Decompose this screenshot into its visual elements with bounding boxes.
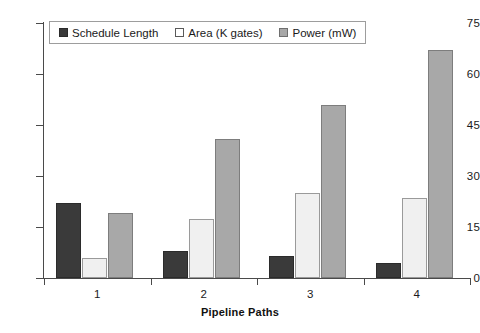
bar: [321, 105, 346, 278]
x-axis-separator: [151, 278, 152, 285]
bar: [189, 219, 214, 279]
x-axis-tick-label: 1: [94, 288, 100, 300]
legend-swatch-icon: [279, 28, 288, 37]
y-axis-tick: [36, 278, 44, 279]
bar: [215, 139, 240, 278]
bar: [376, 263, 401, 278]
legend-item: Power (mW): [279, 27, 356, 39]
x-axis-tick-label: 2: [201, 288, 207, 300]
bar: [82, 258, 107, 278]
chart-legend: Schedule LengthArea (K gates)Power (mW): [49, 21, 366, 44]
bar: [428, 50, 453, 278]
legend-swatch-icon: [59, 28, 68, 37]
bar-chart: 01530456075 1234 Pipeline Paths Schedule…: [0, 0, 480, 333]
x-axis-separator: [364, 278, 365, 285]
legend-swatch-icon: [175, 28, 184, 37]
x-axis-separator: [470, 278, 471, 285]
y-axis-tick: [36, 23, 44, 24]
x-axis-tick-label: 3: [307, 288, 313, 300]
x-axis-separator: [44, 278, 45, 285]
y-axis-tick: [36, 125, 44, 126]
bar: [108, 213, 133, 278]
x-axis-separator: [257, 278, 258, 285]
x-axis-title: Pipeline Paths: [0, 306, 480, 318]
bar: [402, 198, 427, 278]
bar: [56, 203, 81, 278]
y-axis-tick: [36, 74, 44, 75]
legend-item: Area (K gates): [175, 27, 262, 39]
y-axis-tick: [36, 227, 44, 228]
bar: [163, 251, 188, 278]
bar: [295, 193, 320, 278]
bar: [269, 256, 294, 278]
legend-label: Power (mW): [292, 27, 356, 39]
y-axis-tick: [36, 176, 44, 177]
plot-area: [44, 23, 470, 278]
legend-label: Area (K gates): [188, 27, 262, 39]
legend-label: Schedule Length: [72, 27, 158, 39]
legend-item: Schedule Length: [59, 27, 158, 39]
x-axis-tick-label: 4: [414, 288, 420, 300]
